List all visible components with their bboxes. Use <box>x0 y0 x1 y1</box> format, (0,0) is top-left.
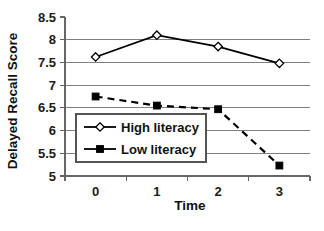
y-axis-title: Delayed Recall Score <box>5 32 20 169</box>
y-tick-label: 8.5 <box>38 10 56 25</box>
x-tick-label: 3 <box>276 184 283 199</box>
x-tick-label: 1 <box>153 184 160 199</box>
legend-label-high-literacy: High literacy <box>121 120 200 135</box>
y-tick-label: 6.5 <box>38 100 56 115</box>
y-tick-label: 6 <box>49 123 56 138</box>
data-point-marker-square <box>153 102 160 109</box>
x-tick-label: 2 <box>215 184 222 199</box>
data-point-marker-square <box>92 93 99 100</box>
legend-label-low-literacy: Low literacy <box>121 142 197 157</box>
y-tick-label: 5.5 <box>38 146 56 161</box>
y-tick-label: 7 <box>49 78 56 93</box>
y-tick-label: 8 <box>49 32 56 47</box>
y-tick-label: 7.5 <box>38 55 56 70</box>
delayed-recall-line-chart: 55.566.577.588.5 0123 Delayed Recall Sco… <box>0 0 324 231</box>
chart-container: 55.566.577.588.5 0123 Delayed Recall Sco… <box>0 0 324 231</box>
x-axis-title: Time <box>174 198 206 213</box>
data-point-marker-square <box>276 162 283 169</box>
x-tick-label: 0 <box>92 184 99 199</box>
chart-legend: High literacyLow literacy <box>76 114 206 162</box>
y-tick-label: 5 <box>49 169 56 184</box>
data-point-marker-square <box>97 146 104 153</box>
data-point-marker-square <box>215 106 222 113</box>
